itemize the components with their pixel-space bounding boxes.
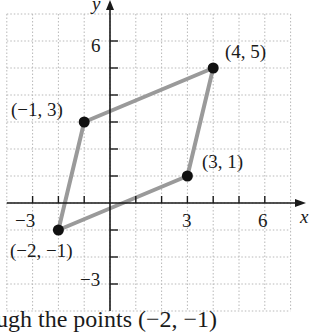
point-label-b: (3, 1) [202, 152, 243, 171]
point-label-c: (4, 5) [225, 42, 266, 61]
y-axis-arrow-icon [106, 0, 114, 10]
x-tick-label-6: 6 [258, 211, 268, 230]
y-tick-label-6: 6 [91, 36, 101, 55]
point-label-d: (−1, 3) [11, 100, 63, 119]
point-label-a: (−2, −1) [10, 241, 73, 260]
coordinate-plane [0, 0, 319, 336]
data-point [53, 225, 64, 236]
data-point [79, 117, 90, 128]
y-axis-label: y [92, 0, 100, 13]
x-tick-label-3: 3 [182, 211, 192, 230]
x-tick-label-neg3: −3 [15, 211, 35, 230]
data-point [208, 63, 219, 74]
y-tick-label-neg3: −3 [80, 270, 100, 289]
x-axis-label: x [300, 207, 308, 226]
caption-text: ugh the points (−2, −1) [0, 307, 217, 331]
data-point [182, 171, 193, 182]
